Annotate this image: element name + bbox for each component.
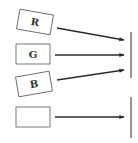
input-box-r: R	[17, 9, 54, 35]
arrow-r	[57, 28, 124, 40]
input-box-empty	[16, 107, 50, 127]
arrow-b	[57, 70, 124, 80]
diagram-canvas: R G B	[0, 0, 138, 143]
box-label-g: G	[29, 49, 38, 60]
input-box-g: G	[16, 44, 50, 64]
input-box-b: B	[16, 71, 53, 97]
